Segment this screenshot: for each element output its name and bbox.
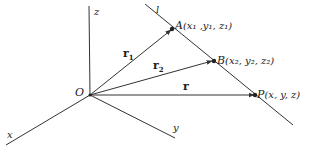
- vector-r1-label: r1: [123, 47, 134, 62]
- point-a-dot: [170, 27, 174, 31]
- y-axis-label: y: [172, 122, 179, 133]
- point-b-label: B(x₂, y₂, z₂): [216, 54, 274, 67]
- point-p-label: P(x, y, z): [256, 88, 300, 101]
- z-axis: [89, 6, 90, 95]
- vector-r2-label: r2: [153, 59, 164, 74]
- origin-dot: [89, 94, 92, 97]
- origin-label: O: [75, 86, 84, 99]
- point-b-dot: [212, 59, 216, 63]
- x-axis: [6, 95, 90, 145]
- vector-r1: [90, 30, 171, 95]
- z-axis-label: z: [93, 6, 100, 17]
- x-axis-label: x: [7, 129, 13, 140]
- line-l-label: l: [156, 4, 159, 15]
- y-axis: [90, 95, 175, 138]
- vector-r-label: r: [183, 80, 189, 93]
- point-a-label: A(x₁ ,y₁, z₁): [174, 19, 232, 32]
- vector-r2: [90, 61, 212, 95]
- vector-line-diagram: z x y O l A(x₁ ,y₁, z₁) B(x₂, y₂, z₂) P(…: [0, 0, 310, 155]
